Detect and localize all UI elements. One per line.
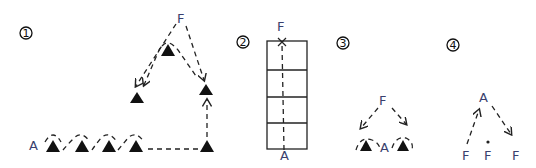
drill-diagrams: 1 F A 2 F A — [0, 0, 536, 168]
diagram-number-1: 1 — [20, 27, 32, 40]
cone-icon — [129, 140, 143, 152]
cone-icon — [200, 140, 214, 152]
start-label: A — [29, 138, 38, 153]
svg-text:3: 3 — [340, 37, 347, 50]
finish-mark-icon — [278, 38, 286, 46]
f-left-label: F — [462, 148, 469, 163]
apex-label: A — [479, 90, 488, 105]
cone-icon — [102, 140, 116, 152]
cone-icon — [360, 140, 372, 151]
diagram-1: 1 F A — [20, 11, 214, 153]
marker-dot — [486, 140, 489, 143]
f-to-right-path — [186, 26, 204, 80]
f-right-label: F — [512, 148, 519, 163]
diagram-3: 3 F A — [337, 37, 412, 155]
finish-label: F — [177, 11, 184, 26]
f-middle-label: F — [484, 148, 491, 163]
left-to-apex-path — [467, 110, 479, 144]
cone-icon — [75, 140, 89, 152]
diagram-number-2: 2 — [237, 36, 249, 49]
diagram-number-4: 4 — [447, 39, 459, 52]
ladder-grid — [267, 41, 307, 149]
finish-label: F — [277, 19, 284, 34]
start-label: A — [280, 148, 289, 163]
svg-text:2: 2 — [240, 36, 247, 49]
f-to-right-path — [392, 108, 406, 124]
cone-icon — [46, 140, 60, 152]
cone-icon — [397, 140, 409, 151]
svg-text:1: 1 — [23, 27, 30, 40]
finish-label: F — [379, 93, 386, 108]
f-to-left-path-2 — [144, 48, 160, 85]
apex-to-right-path — [492, 106, 511, 134]
cone-icon — [130, 92, 144, 103]
diagram-2: 2 F A — [237, 19, 307, 163]
diagram-4: 4 A F F F — [447, 39, 519, 163]
start-label: A — [380, 140, 389, 155]
diagram-number-3: 3 — [337, 37, 349, 50]
f-to-left-path — [361, 108, 378, 128]
cone-icon — [199, 84, 213, 95]
svg-text:4: 4 — [450, 39, 457, 52]
